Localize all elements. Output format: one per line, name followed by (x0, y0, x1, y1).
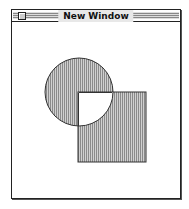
drawing-canvas (0, 0, 189, 209)
